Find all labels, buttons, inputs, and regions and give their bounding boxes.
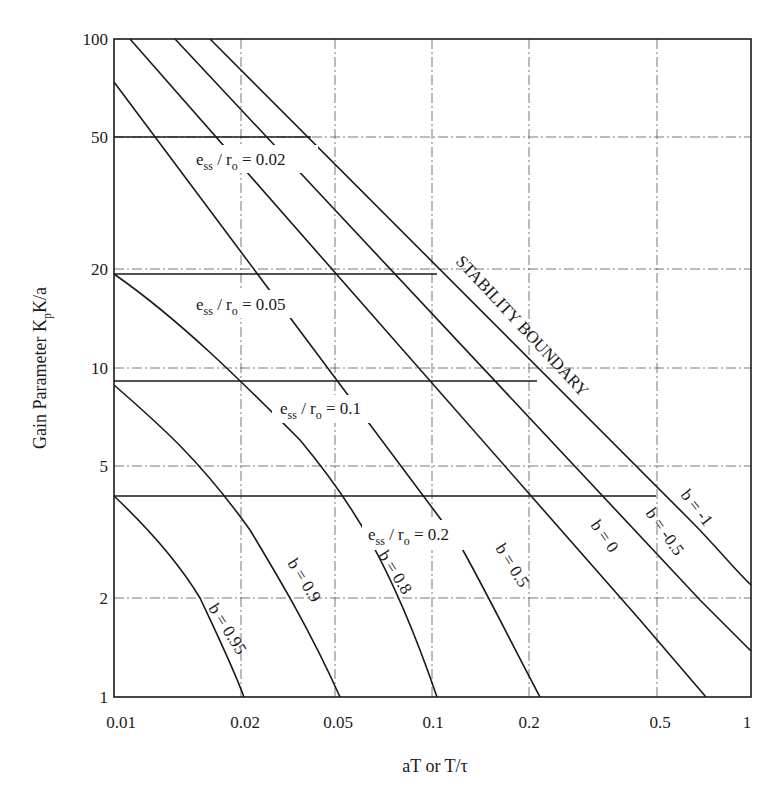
- curve-b-minus-0.5: [175, 39, 751, 651]
- svg-text:1: 1: [100, 688, 109, 707]
- y-axis-ticks: 100 50 20 10 5 2 1: [83, 30, 109, 707]
- svg-text:0.5: 0.5: [649, 713, 670, 732]
- svg-text:100: 100: [83, 30, 109, 49]
- svg-text:1: 1: [743, 713, 752, 732]
- svg-text:0.1: 0.1: [422, 713, 443, 732]
- label-b-0.95: b = 0.95: [205, 600, 251, 658]
- x-axis-ticks: 0.01 0.02 0.05 0.1 0.2 0.5 1: [106, 713, 751, 732]
- label-b-0: b = 0: [587, 516, 623, 556]
- y-axis-label: Gain Parameter KpK/a: [30, 287, 54, 449]
- svg-text:10: 10: [91, 359, 108, 378]
- svg-text:2: 2: [100, 589, 109, 608]
- label-b-minus-0.5: b = -0.5: [642, 504, 688, 559]
- svg-text:0.02: 0.02: [230, 713, 260, 732]
- curve-b-0.8: [114, 274, 437, 697]
- curve-b-0.5: [114, 82, 540, 697]
- svg-text:50: 50: [91, 128, 108, 147]
- label-b-0.8: b = 0.8: [375, 547, 416, 598]
- label-b-0.5: b = 0.5: [492, 540, 533, 591]
- svg-text:0.01: 0.01: [106, 713, 136, 732]
- stability-boundary-label: STABILITY BOUNDARY: [452, 252, 592, 401]
- svg-text:20: 20: [91, 260, 108, 279]
- svg-text:0.05: 0.05: [323, 713, 353, 732]
- chart: ess / ro = 0.02 ess / ro = 0.05 ess / ro…: [0, 0, 779, 799]
- svg-text:0.2: 0.2: [518, 713, 539, 732]
- x-axis-label: aT or T/τ: [402, 756, 468, 776]
- svg-text:5: 5: [100, 457, 109, 476]
- curve-b-0.9: [114, 385, 340, 697]
- label-b-minus-1: b = -1: [677, 486, 717, 530]
- curve-b-0.95: [114, 496, 244, 697]
